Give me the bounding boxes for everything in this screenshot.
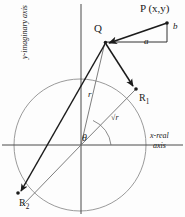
label-point-q: Q: [94, 23, 102, 34]
label-y-axis: y-imaginary axis: [21, 0, 29, 77]
label-point-r2: R2: [19, 198, 29, 211]
vector-p-to-q: [109, 23, 167, 43]
label-leg-b: b: [173, 22, 178, 31]
label-radius-sqrt-r: √r: [111, 114, 119, 122]
point-r1-dot: [134, 87, 138, 91]
vector-q-to-r1: [106, 44, 133, 86]
label-point-p: P (x,y): [140, 3, 170, 14]
point-r2-dot: [16, 191, 20, 195]
point-p-dot: [165, 21, 169, 25]
label-point-r2-subscript: 2: [26, 203, 30, 211]
label-point-r2-base: R: [19, 197, 26, 208]
complex-plane-figure: P (x,y) Q a b r √r θ R1 R2 x-real axis y…: [0, 0, 185, 217]
label-point-r1: R1: [139, 93, 149, 106]
ray-origin-to-q: [81, 42, 105, 145]
point-q-dot: [104, 41, 108, 45]
label-radius-r: r: [88, 90, 92, 99]
label-x-axis-line2: axis: [150, 141, 169, 151]
label-x-axis-line1: x-real: [150, 131, 169, 141]
label-angle-theta: θ: [82, 133, 87, 143]
label-point-r1-subscript: 1: [146, 98, 150, 106]
label-leg-a: a: [144, 37, 149, 46]
ray-origin-to-r2-guide: [22, 145, 81, 206]
label-x-axis: x-real axis: [150, 131, 169, 151]
label-point-r1-base: R: [139, 92, 146, 103]
vector-q-to-r2: [21, 44, 105, 191]
